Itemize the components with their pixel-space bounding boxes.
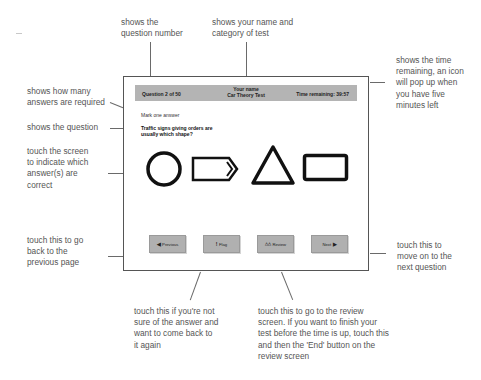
review-icon: △△: [265, 242, 271, 246]
annotation-line: shows your name and: [212, 17, 293, 28]
annotation-line: move on to the: [397, 251, 452, 262]
pointer-line-name-category: [246, 42, 247, 76]
annotation-line: screen. If you want to finish your: [258, 317, 389, 328]
flag-button[interactable]: ! Flag: [203, 235, 240, 253]
annotation-line: and then the 'End' button on the: [258, 340, 389, 351]
right-arrow-icon: ▶: [333, 241, 337, 247]
annotation-time-remaining: shows the time remaining, an icon will p…: [396, 55, 464, 111]
annotation-line: correct: [27, 180, 88, 191]
answer-circle-shape-icon[interactable]: [145, 150, 183, 188]
annotation-line: you have five: [396, 89, 464, 100]
flag-label: Flag: [219, 242, 227, 247]
pointer-line-question-number: [150, 42, 151, 76]
answer-triangle-shape-icon[interactable]: [250, 143, 296, 187]
annotation-line: shows how many: [27, 86, 105, 97]
annotation-line: review screen: [258, 351, 389, 362]
pointer-line-next: [370, 253, 386, 254]
annotation-line: shows the: [121, 17, 183, 28]
annotation-question: shows the question: [27, 122, 98, 133]
annotation-review: touch this to go to the review screen. I…: [258, 306, 389, 362]
annotation-line: remaining, an icon: [396, 66, 464, 77]
exclamation-icon: !: [216, 241, 218, 247]
annotation-line: back to the: [27, 246, 83, 257]
question-text: Traffic signs giving orders are usually …: [141, 126, 221, 138]
annotation-line: touch this if you're not: [134, 306, 218, 317]
pointer-line-time-remaining: [370, 82, 385, 83]
annotation-line: touch this to: [397, 240, 452, 251]
header-bar: Question 2 of 50 Your name Car Theory Te…: [135, 85, 357, 101]
annotation-line: answers are required: [27, 97, 105, 108]
previous-button[interactable]: ◀ Previous: [149, 235, 186, 253]
annotation-line: previous page: [27, 257, 83, 268]
annotation-line: to indicate which: [27, 157, 88, 168]
annotation-line: touch this to go: [27, 235, 83, 246]
next-button[interactable]: Next ▶: [311, 235, 348, 253]
annotation-line: touch the screen: [27, 146, 88, 157]
annotation-line: sure of the answer and: [134, 317, 218, 328]
annotation-name-category: shows your name and category of test: [212, 17, 293, 39]
decorative-dash: [16, 33, 22, 34]
pointer-line-review: [281, 272, 293, 300]
pointer-line-question: [110, 128, 123, 129]
answer-rectangle-shape-icon[interactable]: [302, 153, 350, 183]
annotation-line: minutes left: [396, 100, 464, 111]
annotation-answers-required: shows how many answers are required: [27, 86, 105, 108]
next-label: Next: [322, 242, 331, 247]
annotation-flag: touch this if you're not sure of the ans…: [134, 306, 218, 351]
annotation-question-number: shows the question number: [121, 17, 183, 39]
previous-label: Previous: [162, 242, 178, 247]
pointer-line-touch-screen: [108, 173, 123, 174]
review-label: Review: [272, 242, 286, 247]
annotation-previous: touch this to go back to the previous pa…: [27, 235, 83, 269]
time-remaining: Time remaining: 39:57: [296, 91, 349, 97]
annotation-line: want to come back to: [134, 328, 218, 339]
pointer-line-previous: [108, 256, 123, 257]
pointer-line-answers-required: [110, 102, 123, 108]
annotation-line: it again: [134, 340, 218, 351]
answer-instruction: Mark one answer: [141, 112, 179, 118]
review-button[interactable]: △△ Review: [257, 235, 294, 253]
test-screen: Question 2 of 50 Your name Car Theory Te…: [123, 76, 369, 271]
annotation-next: touch this to move on to the next questi…: [397, 240, 452, 274]
annotation-line: category of test: [212, 28, 293, 39]
annotation-touch-screen: touch the screen to indicate which answe…: [27, 146, 88, 191]
annotation-line: answer(s) are: [27, 168, 88, 179]
answer-arrow-rectangle-shape-icon[interactable]: [191, 155, 241, 183]
annotation-line: test before the time is up, touch this: [258, 328, 389, 339]
annotation-line: question number: [121, 28, 183, 39]
annotation-line: shows the question: [27, 122, 98, 133]
annotation-line: will pop up when: [396, 77, 464, 88]
left-arrow-icon: ◀: [157, 241, 161, 247]
annotation-line: touch this to go to the review: [258, 306, 389, 317]
pointer-line-flag: [190, 272, 201, 301]
annotation-line: shows the time: [396, 55, 464, 66]
annotation-line: next question: [397, 262, 452, 273]
